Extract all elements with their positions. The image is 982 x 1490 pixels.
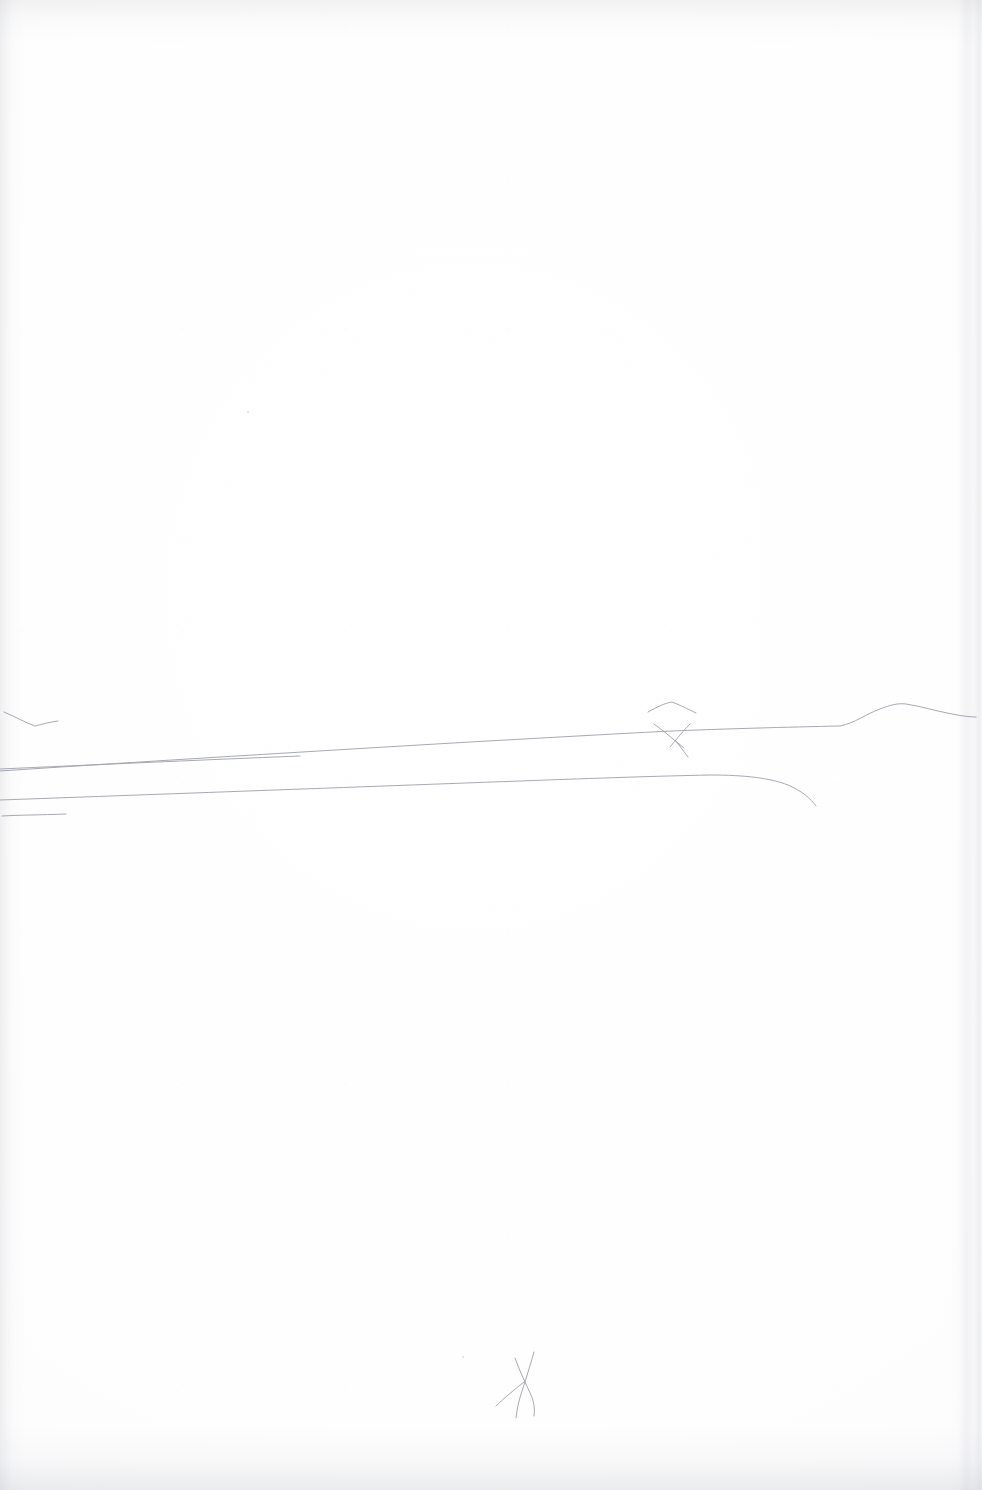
paper-speck-lower-mid <box>462 1356 464 1358</box>
pencil-sketch <box>0 0 982 1490</box>
sketch-canvas <box>0 0 982 1490</box>
pencil-stroke-x-tail <box>676 741 688 757</box>
pencil-stroke-stub-bottom-left <box>2 814 66 816</box>
pencil-stroke-check-mark-left <box>4 712 58 726</box>
pencil-stroke-squiggle-tail <box>496 1382 524 1406</box>
pencil-stroke-squiggle-mark <box>516 1352 534 1418</box>
pencil-stroke-x-branch-lower <box>670 724 690 747</box>
paper-speck-upper-mid <box>247 411 249 413</box>
pencil-stroke-horizon-main <box>0 704 976 771</box>
pencil-stroke-horizon-second <box>0 775 816 806</box>
pencil-stroke-line-upper-left-short <box>0 756 300 769</box>
pencil-stroke-small-peak-arc <box>648 702 696 713</box>
scanned-page: Blank sheet with faint pencil landscape … <box>0 0 982 1490</box>
